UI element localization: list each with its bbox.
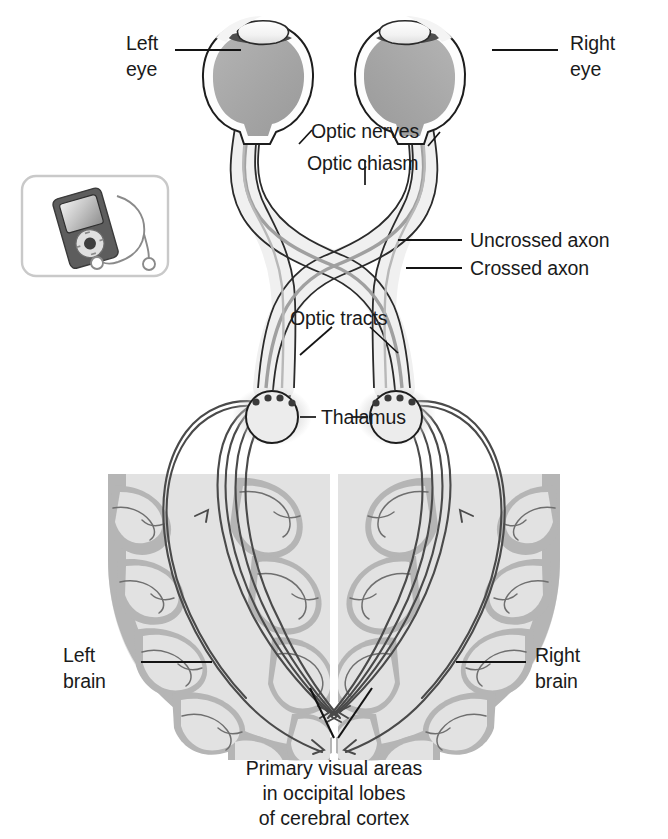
label-optic-tracts: Optic tracts xyxy=(290,307,388,329)
label-right-eye-line1: Right xyxy=(570,32,616,54)
cortex-left xyxy=(108,474,337,784)
label-crossed-axon: Crossed axon xyxy=(470,257,589,279)
label-uncrossed-axon: Uncrossed axon xyxy=(470,229,610,251)
label-right-brain-line2: brain xyxy=(535,670,578,692)
earbud-left xyxy=(91,257,103,269)
diagram-canvas: Left eye Right eye Optic nerves Optic ch… xyxy=(0,0,668,839)
earbud-right xyxy=(143,258,155,270)
thalamus-left xyxy=(232,386,312,446)
label-right-eye-line2: eye xyxy=(570,58,601,80)
caption-line3: of cerebral cortex xyxy=(259,807,410,829)
inset-mp3-player-icon[interactable] xyxy=(22,176,168,276)
cortex-right xyxy=(331,474,560,784)
label-optic-nerves: Optic nerves xyxy=(311,120,420,142)
label-optic-chiasm: Optic chiasm xyxy=(307,152,419,174)
left-eye xyxy=(203,16,313,144)
label-right-brain-line1: Right xyxy=(535,644,581,666)
label-left-eye-line2: eye xyxy=(126,58,157,80)
visual-pathway-figure: Left eye Right eye Optic nerves Optic ch… xyxy=(0,0,668,839)
label-left-brain-line1: Left xyxy=(63,644,96,666)
label-left-eye-line1: Left xyxy=(126,32,159,54)
leader-optic-tracts-left xyxy=(300,327,332,355)
caption-line2: in occipital lobes xyxy=(262,782,405,804)
caption-line1: Primary visual areas xyxy=(246,757,423,779)
label-thalamus: Thalamus xyxy=(321,406,406,428)
label-left-brain-line2: brain xyxy=(63,670,106,692)
